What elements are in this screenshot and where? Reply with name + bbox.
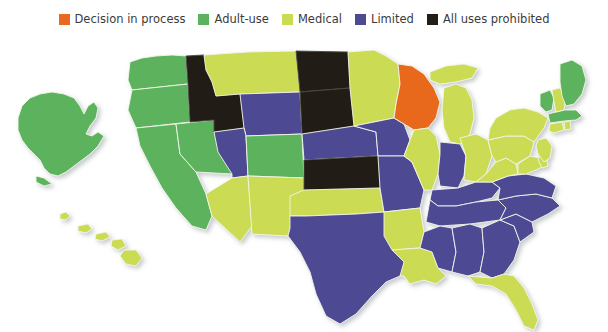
state-ME[interactable] <box>560 60 586 106</box>
state-IN[interactable] <box>438 142 466 188</box>
legend-item-decision-in-process[interactable]: Decision in process <box>59 13 186 25</box>
state-GA[interactable] <box>480 220 520 278</box>
state-CO[interactable] <box>246 134 304 178</box>
state-MN[interactable] <box>348 50 400 126</box>
legend-swatch-limited <box>355 14 366 25</box>
state-AK[interactable] <box>18 92 104 176</box>
state-KS[interactable] <box>304 156 380 190</box>
legend-item-limited[interactable]: Limited <box>355 13 414 25</box>
legend-swatch-medical <box>282 14 293 25</box>
state-OR[interactable] <box>128 84 190 128</box>
state-HI-3[interactable] <box>95 232 110 241</box>
legend-swatch-all-uses-prohibited <box>427 14 438 25</box>
state-MI[interactable] <box>442 84 474 144</box>
cannabis-legalization-map-page: Decision in process Adult-use Medical Li… <box>0 0 608 332</box>
state-MI-up[interactable] <box>430 64 478 84</box>
legend-label-limited: Limited <box>371 13 414 25</box>
us-choropleth-map <box>0 36 608 332</box>
map-states-group <box>18 50 586 330</box>
state-AL[interactable] <box>452 224 484 276</box>
legend-item-all-uses-prohibited[interactable]: All uses prohibited <box>427 13 550 25</box>
state-AK-aleutians[interactable] <box>36 176 52 186</box>
state-OK[interactable] <box>290 188 384 216</box>
legend-label-decision-in-process: Decision in process <box>75 13 186 25</box>
state-VT[interactable] <box>540 90 554 112</box>
state-AZ[interactable] <box>206 176 252 242</box>
state-MT[interactable] <box>204 51 300 96</box>
state-MA[interactable] <box>548 110 582 123</box>
state-ND[interactable] <box>296 51 350 92</box>
state-WY[interactable] <box>240 92 302 136</box>
state-CT[interactable] <box>549 122 564 133</box>
legend-label-all-uses-prohibited: All uses prohibited <box>443 13 550 25</box>
state-AR[interactable] <box>384 208 424 250</box>
legend-label-adult-use: Adult-use <box>214 13 268 25</box>
state-HI-5[interactable] <box>120 250 142 266</box>
legend-swatch-decision-in-process <box>59 14 70 25</box>
state-HI-2[interactable] <box>78 224 92 233</box>
legend-swatch-adult-use <box>198 14 209 25</box>
state-FL[interactable] <box>468 274 538 330</box>
state-RI[interactable] <box>564 121 571 130</box>
legend-label-medical: Medical <box>298 13 342 25</box>
us-map-svg <box>0 36 608 332</box>
legend-item-medical[interactable]: Medical <box>282 13 342 25</box>
state-HI-4[interactable] <box>111 239 126 250</box>
state-HI[interactable] <box>60 212 70 220</box>
map-legend: Decision in process Adult-use Medical Li… <box>0 13 608 25</box>
legend-item-adult-use[interactable]: Adult-use <box>198 13 268 25</box>
